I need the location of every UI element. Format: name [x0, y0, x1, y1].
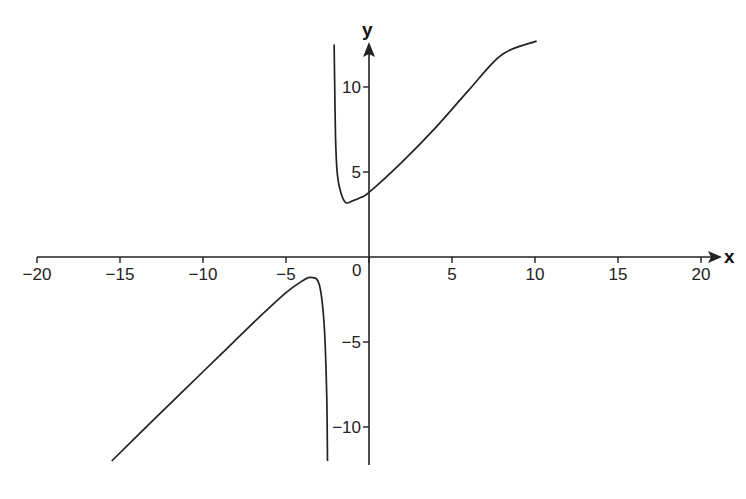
x-tick-label: −20: [23, 265, 52, 284]
y-tick-label: −10: [332, 418, 361, 437]
x-tick-label: 5: [447, 265, 456, 284]
x-ticks: −20−15−10−551015200: [23, 257, 711, 284]
y-tick-label: 5: [352, 163, 361, 182]
y-axis-label: y: [362, 19, 373, 40]
x-tick-label: −5: [276, 265, 295, 284]
x-tick-label: −10: [189, 265, 218, 284]
axes: [37, 52, 718, 465]
x-tick-label: 15: [609, 265, 628, 284]
x-axis-label: x: [724, 246, 735, 267]
curves: [112, 41, 537, 461]
y-tick-label: 10: [342, 78, 361, 97]
origin-label: 0: [352, 261, 361, 280]
x-tick-label: 20: [692, 265, 711, 284]
y-tick-label: −5: [342, 333, 361, 352]
function-plot: x y −20−15−10−551015200 105−5−10: [0, 0, 746, 499]
curve-upper-branch: [334, 41, 537, 203]
x-tick-label: 10: [526, 265, 545, 284]
x-tick-label: −15: [106, 265, 135, 284]
curve-lower-branch: [112, 277, 328, 461]
